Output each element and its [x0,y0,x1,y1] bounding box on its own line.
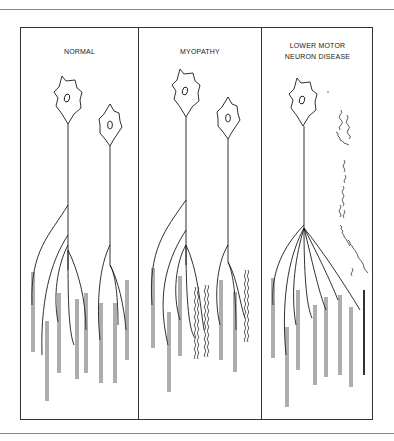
bottom-rule [0,433,394,434]
neuron-soma-icon [289,78,317,126]
panel-lmnd [272,78,368,407]
muscle-fiber [85,293,87,373]
panel-myopathy [151,69,248,392]
degenerated-neuron [327,91,368,276]
muscle-fiber [114,303,116,383]
neuron-soma-icon [54,76,82,124]
neuron-soma-icon [217,97,240,139]
neuron-soma-icon [99,104,122,146]
muscle-fiber [179,276,181,356]
myopathic-fiber [204,285,209,357]
muscle-fiber [100,303,102,383]
neuron-soma-icon [172,69,200,117]
muscle-fiber [286,327,288,407]
muscle-fiber [220,280,222,360]
muscle-fiber [339,295,341,375]
muscle-fiber [168,312,170,392]
muscle-fiber [152,268,154,348]
myopathic-fiber [194,287,199,359]
muscle-fiber [32,272,34,352]
muscle-fiber [126,280,128,360]
muscle-fiber [350,307,352,387]
muscle-fiber [76,299,78,379]
muscle-fiber [58,293,60,373]
myopathic-fiber [244,270,249,342]
muscle-fiber [314,305,316,385]
muscle-fiber [297,290,299,370]
panel-normal [32,76,128,401]
diagram-art [0,0,394,441]
muscle-fiber [46,321,48,401]
